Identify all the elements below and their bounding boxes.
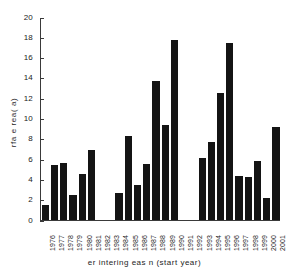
bar [217,93,224,220]
bar [51,165,58,220]
plot-area: 02468101214161820 [40,18,280,221]
x-tick-label: 1988 [159,235,166,251]
x-axis-tick-labels: 1976197719781979198019811982198319841985… [41,223,280,253]
bar-slot [179,18,188,220]
x-tick-label: 1998 [252,235,259,251]
x-tick-label: 1997 [242,235,249,251]
bar-slot [235,18,244,220]
y-tick-mark [40,221,44,222]
x-tick-label: 1981 [95,235,102,251]
bar-slot [115,18,124,220]
x-tick-label: 1992 [196,235,203,251]
bar-chart-figure: rfa e rea( a) 02468101214161820 19761977… [0,0,289,280]
x-tick-label: 1995 [224,235,231,251]
x-tick-label: 2000 [270,235,277,251]
x-tick-label: 1987 [150,235,157,251]
bar-slot [133,18,142,220]
bar [162,125,169,220]
bar-slot [124,18,133,220]
bar [143,164,150,220]
x-tick-label: 1982 [104,235,111,251]
x-tick-label: 1986 [141,235,148,251]
bar-slot [69,18,78,220]
bar [272,127,279,220]
x-tick-label: 1990 [178,235,185,251]
x-axis-line [40,220,280,221]
bar-slot [143,18,152,220]
x-tick-label: 1991 [187,235,194,251]
bar [171,40,178,220]
x-tick-label: 1983 [113,235,120,251]
y-tick-label: 0 [11,216,33,225]
bar-slot [41,18,50,220]
y-tick-label: 2 [11,195,33,204]
bar-slot [152,18,161,220]
x-tick-label: 1980 [86,235,93,251]
bar-slot [161,18,170,220]
bar-slot [272,18,281,220]
x-tick-label: 1976 [49,235,56,251]
bar-slot [253,18,262,220]
y-tick-label: 16 [11,53,33,62]
bar [115,193,122,220]
bar [226,43,233,220]
bar [235,176,242,220]
bar-series [41,18,280,220]
x-tick-label: 1996 [233,235,240,251]
y-tick-label: 10 [11,114,33,123]
bar [42,205,49,220]
x-tick-label: 1984 [122,235,129,251]
y-tick-label: 6 [11,155,33,164]
bar [254,161,261,220]
bar [60,163,67,220]
bar [263,198,270,220]
bar-slot [78,18,87,220]
x-tick-label: 1993 [206,235,213,251]
bar-slot [87,18,96,220]
x-axis-label: er intering eas n (start year) [0,258,289,267]
bar [69,195,76,220]
bar [199,158,206,220]
bar-slot [189,18,198,220]
bar-slot [198,18,207,220]
y-tick-label: 18 [11,33,33,42]
y-tick-label: 12 [11,94,33,103]
x-tick-label: 2001 [279,235,286,251]
x-tick-label: 1978 [67,235,74,251]
bar-slot [170,18,179,220]
bar-slot [216,18,225,220]
bar [245,177,252,220]
x-tick-label: 1985 [132,235,139,251]
bar [152,81,159,220]
bar [125,136,132,220]
y-tick-label: 8 [11,134,33,143]
bar-slot [50,18,59,220]
bar [88,150,95,220]
x-tick-label: 1994 [215,235,222,251]
x-tick-label: 1979 [76,235,83,251]
bar-slot [263,18,272,220]
x-tick-label: 1977 [58,235,65,251]
bar-slot [96,18,105,220]
x-tick-label: 1999 [261,235,268,251]
bar-slot [106,18,115,220]
y-tick-label: 4 [11,175,33,184]
bar-slot [244,18,253,220]
bar [134,185,141,220]
bar-slot [59,18,68,220]
x-tick-label: 1989 [169,235,176,251]
y-tick-label: 20 [11,13,33,22]
bar [208,142,215,220]
y-tick-label: 14 [11,73,33,82]
bar-slot [226,18,235,220]
bar [79,174,86,220]
bar-slot [207,18,216,220]
